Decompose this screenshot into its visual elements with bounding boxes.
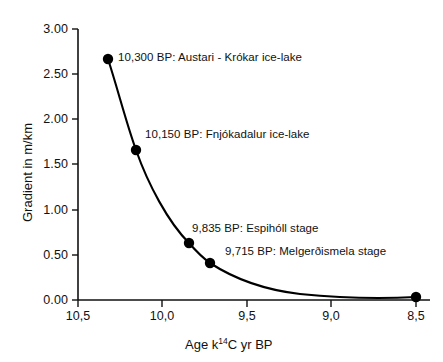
annotation-fnjokadalur: 10,150 BP: Fnjókadalur ice-lake: [145, 128, 310, 140]
y-axis-ticks: [72, 29, 78, 300]
x-tick-label-10-5: 10,5: [48, 309, 108, 323]
x-axis-title-post: C yr BP: [228, 337, 273, 352]
data-curve: [108, 59, 416, 298]
annotation-espiholl: 9,835 BP: Espihóll stage: [192, 222, 319, 234]
x-axis-title-superscript: 14: [218, 336, 227, 346]
x-tick-label-9-0: 9,0: [301, 309, 361, 323]
y-tick-label-0-5: 0.50: [14, 248, 68, 262]
y-tick-label-0: 0.00: [14, 293, 68, 307]
y-tick-label-3: 3.00: [14, 22, 68, 36]
data-point-marker: [131, 145, 141, 155]
x-tick-label-10-0: 10,0: [132, 309, 192, 323]
annotation-melgerdismela: 9,715 BP: Melgerðismela stage: [225, 245, 386, 257]
x-tick-label-8-5: 8,5: [386, 309, 443, 323]
data-point-marker: [205, 258, 215, 268]
data-point-marker: [184, 238, 194, 248]
y-axis-title: Gradient in m/km: [20, 123, 35, 222]
x-axis-title-pre: Age k: [185, 337, 218, 352]
x-axis-ticks: [78, 300, 416, 307]
data-point-marker: [411, 292, 421, 302]
chart-figure: 3.00 2.50 2.00 1.50 1.00 0.50 0.00 10,5 …: [0, 0, 443, 362]
x-axis-title: Age k14C yr BP: [185, 337, 273, 352]
data-point-marker: [103, 54, 113, 64]
annotation-austari-krokar: 10,300 BP: Austari - Krókar ice-lake: [118, 51, 302, 63]
x-tick-label-9-5: 9,5: [217, 309, 277, 323]
y-tick-label-2-5: 2.50: [14, 67, 68, 81]
data-points: [103, 54, 421, 302]
